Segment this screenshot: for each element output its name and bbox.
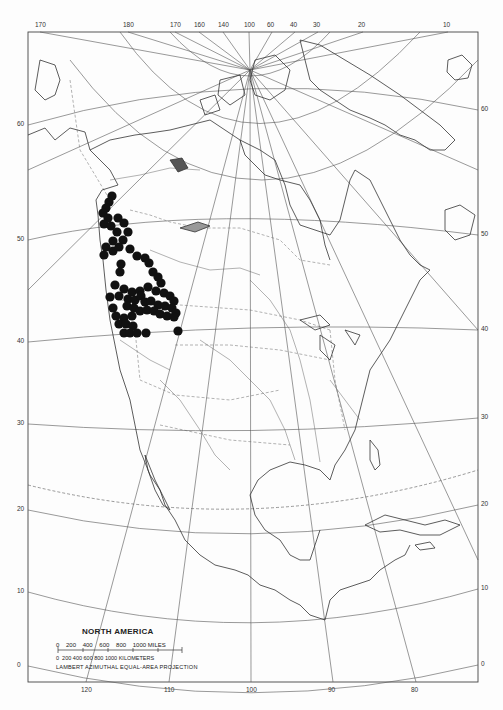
occurrence-dot [114, 242, 123, 251]
longitude-label: 20 [358, 22, 365, 29]
occurrence-dot [151, 286, 160, 295]
occurrence-dot [110, 280, 119, 289]
projection-label: LAMBERT AZIMUTHAL EQUAL-AREA PROJECTION [56, 664, 246, 670]
occurrence-dot [132, 251, 141, 260]
occurrence-dot [114, 291, 123, 300]
occurrence-dot [141, 328, 150, 337]
longitude-label: 180 [123, 22, 134, 29]
latitude-label: 40 [17, 338, 24, 345]
occurrence-dot [112, 227, 121, 236]
longitude-label: 80 [411, 687, 418, 694]
occurrence-dot [169, 312, 178, 321]
latitude-label: 0 [481, 661, 485, 668]
rivers [110, 168, 360, 470]
longitude-label: 140 [218, 22, 229, 29]
map-title: NORTH AMERICA [82, 627, 246, 636]
longitude-label: 60 [267, 22, 274, 29]
longitude-label: 40 [290, 22, 297, 29]
occurrence-dot [144, 258, 153, 267]
occurrence-dot [143, 282, 152, 291]
occurrence-dot [99, 250, 108, 259]
occurrence-dot [108, 303, 117, 312]
occurrence-dot [132, 328, 141, 337]
longitude-label: 30 [313, 22, 320, 29]
latitude-label: 20 [481, 501, 488, 508]
occurrence-dot [125, 244, 134, 253]
longitude-label: 10 [443, 22, 450, 29]
occurrence-dot [115, 267, 124, 276]
latitude-label: 60 [481, 106, 488, 113]
longitude-label: 120 [81, 687, 92, 694]
longitude-label: 100 [246, 687, 257, 694]
latitude-label: 40 [481, 326, 488, 333]
latitude-label: 0 [17, 662, 21, 669]
longitude-label: 170 [35, 22, 46, 29]
graticule [28, 32, 478, 693]
occurrence-dot [156, 278, 165, 287]
occurrence-dot [123, 227, 132, 236]
latitude-label: 50 [481, 231, 488, 238]
occurrence-dot [119, 218, 128, 227]
map-frame [28, 32, 478, 682]
longitude-label: 160 [194, 22, 205, 29]
occurrence-dot [173, 326, 182, 335]
latitude-label: 30 [17, 420, 24, 427]
longitude-label: 170 [170, 22, 181, 29]
latitude-label: 30 [481, 414, 488, 421]
latitude-label: 10 [17, 588, 24, 595]
occurrence-dot [111, 311, 120, 320]
coastlines [28, 40, 475, 620]
latitude-label: 50 [17, 236, 24, 243]
species-occurrence-dots [98, 191, 182, 337]
latitude-label: 20 [17, 506, 24, 513]
occurrence-dot [105, 292, 114, 301]
north-america-map [0, 0, 503, 710]
scale-miles-label: 0 200 400 600 800 1000 MILES [56, 642, 246, 648]
occurrence-dot [116, 259, 125, 268]
scale-km-label: 0 200 400 600 800 1000 KILOMETERS [56, 655, 246, 661]
longitude-label: 90 [328, 687, 335, 694]
map-legend: NORTH AMERICA 0 200 400 600 800 1000 MIL… [56, 627, 246, 670]
longitude-label: 110 [164, 687, 174, 694]
latitude-label: 10 [481, 585, 488, 592]
occurrence-dot [127, 311, 136, 320]
latitude-label: 60 [17, 121, 24, 128]
longitude-label: 100 [244, 22, 255, 29]
